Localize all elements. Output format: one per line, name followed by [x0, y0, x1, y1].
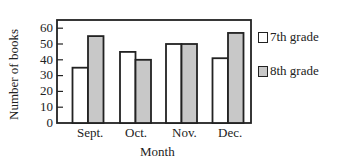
- x-tick-nov: Nov.: [172, 125, 197, 141]
- bar-8th-3: [228, 33, 244, 123]
- bar-8th-2: [182, 44, 198, 123]
- bar-7th-3: [213, 58, 229, 123]
- bar-8th-0: [88, 36, 104, 123]
- y-tick-20: 20: [33, 83, 53, 99]
- legend-swatch-gray: [258, 66, 268, 77]
- y-axis-label: Number of books: [6, 29, 22, 120]
- legend-item-8th: 8th grade: [258, 63, 319, 79]
- y-tick-10: 10: [33, 99, 53, 115]
- legend-label-8th: 8th grade: [270, 63, 319, 79]
- y-tick-40: 40: [33, 52, 53, 68]
- legend-item-7th: 7th grade: [258, 29, 319, 45]
- bar-chart: Number of books 60 50 40 30 20 10 0 Sept…: [0, 0, 338, 165]
- y-tick-0: 0: [33, 115, 53, 131]
- bar-8th-1: [136, 60, 152, 123]
- x-tick-dec: Dec.: [218, 125, 242, 141]
- x-tick-sept: Sept.: [77, 125, 103, 141]
- x-tick-oct: Oct.: [125, 125, 147, 141]
- y-tick-60: 60: [33, 20, 53, 36]
- bar-7th-0: [73, 68, 89, 123]
- legend-swatch-white: [258, 32, 268, 43]
- bar-7th-2: [166, 44, 182, 123]
- y-tick-30: 30: [33, 67, 53, 83]
- y-tick-50: 50: [33, 36, 53, 52]
- legend-label-7th: 7th grade: [270, 29, 319, 45]
- bar-7th-1: [120, 52, 136, 123]
- x-axis-label: Month: [140, 144, 175, 160]
